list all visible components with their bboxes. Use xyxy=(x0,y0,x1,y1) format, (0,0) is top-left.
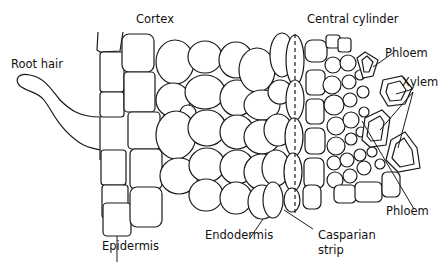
label-cortex: Cortex xyxy=(136,13,174,26)
label-xylem: Xylem xyxy=(402,76,438,89)
root-hair-outline xyxy=(17,74,100,160)
cortex-cells xyxy=(156,33,294,219)
label-phloem-top: Phloem xyxy=(385,47,428,60)
endodermis-cells xyxy=(284,34,304,215)
label-epidermis: Epidermis xyxy=(102,240,159,253)
label-phloem-bottom: Phloem xyxy=(386,205,429,218)
label-root-hair: Root hair xyxy=(11,58,63,71)
root-cross-section-diagram xyxy=(0,0,446,267)
label-casparian-strip-line2: strip xyxy=(318,244,344,257)
label-central-cylinder: Central cylinder xyxy=(307,13,398,26)
label-endodermis: Endodermis xyxy=(205,229,273,242)
label-casparian-strip-line1: Casparian xyxy=(318,229,376,242)
